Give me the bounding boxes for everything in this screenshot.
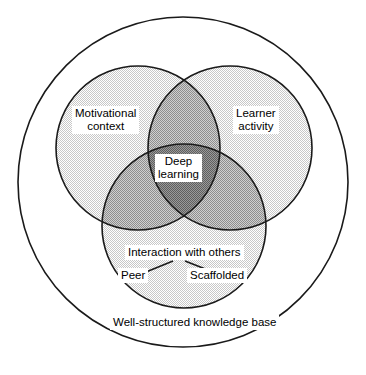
label-deep-learning-line2: learning [158, 168, 199, 181]
label-motivational-context-line1: Motivational [75, 107, 136, 120]
label-learner-activity-line1: Learner [236, 107, 276, 120]
venn-diagram-figure: Motivational context Learner activity De… [0, 0, 366, 375]
label-deep-learning: Deep learning [155, 154, 202, 182]
label-well-structured-knowledge-base: Well-structured knowledge base [110, 315, 279, 330]
label-scaffolded: Scaffolded [187, 268, 247, 283]
label-interaction-with-others: Interaction with others [125, 245, 244, 260]
label-learner-activity-line2: activity [236, 120, 276, 133]
label-motivational-context: Motivational context [72, 106, 139, 134]
label-peer: Peer [118, 268, 148, 283]
label-deep-learning-line1: Deep [158, 155, 199, 168]
label-motivational-context-line2: context [75, 120, 136, 133]
label-learner-activity: Learner activity [233, 106, 279, 134]
